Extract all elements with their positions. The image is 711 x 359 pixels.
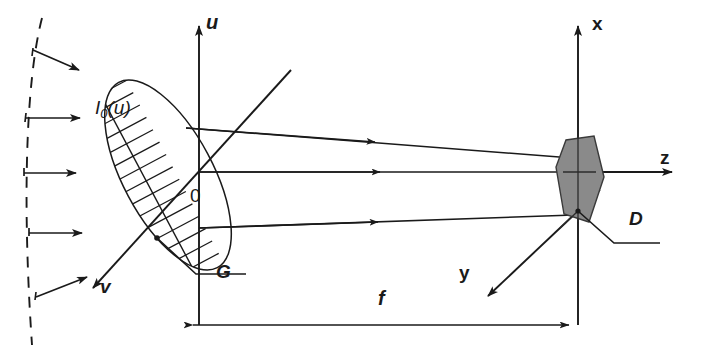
focal-length-label: f <box>378 288 385 308</box>
wavefront-tick-1 <box>32 48 33 56</box>
optical-diagram-figure: u v x y z 0 G D f I0(u) <box>0 0 711 359</box>
ray-bundle <box>186 128 578 228</box>
diagram-canvas <box>0 0 711 359</box>
wavefront-arrow-group <box>24 48 87 300</box>
detector-label: D <box>629 209 643 228</box>
ray-lower-midarrow <box>199 222 378 228</box>
wavefront-arrow-5 <box>36 277 87 297</box>
ray-upper-midarrow <box>186 128 375 142</box>
wavefront-arrow-1 <box>33 50 79 70</box>
incident-intensity-argument: (u) <box>108 97 131 118</box>
detector-face <box>556 136 604 222</box>
detector-plane <box>556 136 604 228</box>
incident-intensity-subscript: 0 <box>100 106 107 121</box>
grating-anchor-dot <box>154 235 160 241</box>
wavefront-tick-5 <box>35 292 36 300</box>
incident-intensity-label: I0(u) <box>95 98 131 120</box>
grating-label: G <box>216 262 231 281</box>
z-axis-label: z <box>660 148 670 167</box>
v-axis-label: v <box>100 277 111 296</box>
u-axis-label: u <box>206 12 218 32</box>
wavefront-tick-2 <box>25 113 26 122</box>
x-axis-label: x <box>592 14 603 33</box>
origin-label: 0 <box>190 186 201 205</box>
y-axis-label: y <box>459 263 470 282</box>
